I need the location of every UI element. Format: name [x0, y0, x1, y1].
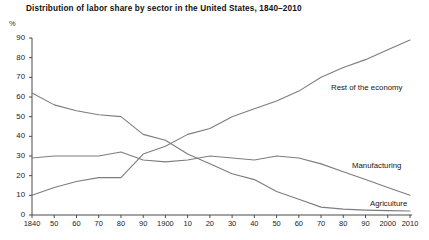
- y-axis-tick-label: 90: [3, 33, 25, 42]
- y-axis-tick-label: 50: [3, 112, 25, 121]
- series-label-rest-of-the-economy: Rest of the economy: [331, 83, 403, 92]
- x-axis-tick-label: 70: [95, 219, 103, 228]
- x-axis-tick-label: 2010: [402, 219, 419, 228]
- y-axis-tick-label: 30: [3, 151, 25, 160]
- x-axis-tick-label: 30: [228, 219, 236, 228]
- y-axis-tick-label: 60: [3, 92, 25, 101]
- x-axis-tick-label: 60: [72, 219, 80, 228]
- plot-svg: [0, 0, 429, 240]
- y-axis-tick-label: 0: [3, 210, 25, 219]
- axis-lines: [32, 38, 412, 215]
- x-axis-tick-label: 80: [117, 219, 125, 228]
- x-axis-tick-label: 60: [295, 219, 303, 228]
- series-line-manufacturing: [32, 152, 410, 195]
- x-axis-tick-label: 20: [206, 219, 214, 228]
- x-axis-tick-label: 1840: [24, 219, 41, 228]
- x-axis-tick-label: 90: [139, 219, 147, 228]
- series-line-rest-of-the-economy: [32, 40, 410, 195]
- series-line-agriculture: [32, 93, 410, 211]
- x-axis-tick-label: 1900: [157, 219, 174, 228]
- y-axis-tick-label: 10: [3, 190, 25, 199]
- y-axis-tick-label: 70: [3, 72, 25, 81]
- x-axis-tick-label: 70: [317, 219, 325, 228]
- x-axis-tick-label: 2000: [379, 219, 396, 228]
- series-label-agriculture: Agriculture: [370, 199, 407, 208]
- series-lines: [32, 40, 410, 211]
- x-axis-tick-label: 10: [183, 219, 191, 228]
- x-axis-tick-label: 40: [250, 219, 258, 228]
- x-axis-tick-label: 50: [272, 219, 280, 228]
- y-axis-tick-label: 20: [3, 171, 25, 180]
- chart-container: Distribution of labor share by sector in…: [0, 0, 429, 240]
- x-axis-tick-label: 80: [339, 219, 347, 228]
- series-label-manufacturing: Manufacturing: [352, 161, 401, 170]
- y-axis-tick-label: 80: [3, 53, 25, 62]
- x-axis-tick-label: 50: [50, 219, 58, 228]
- x-axis-tick-label: 90: [361, 219, 369, 228]
- y-axis-tick-label: 40: [3, 131, 25, 140]
